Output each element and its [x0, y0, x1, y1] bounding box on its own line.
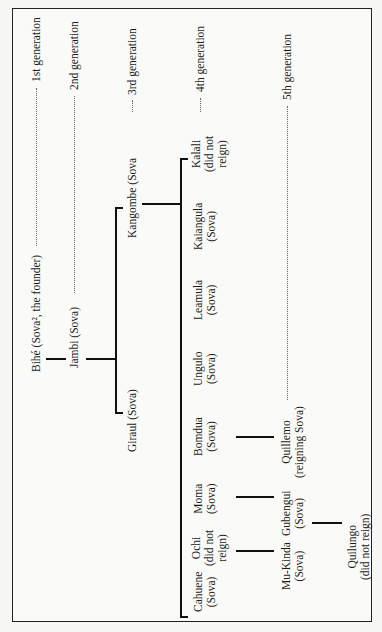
connector-jambi-sons [86, 358, 116, 360]
generation-label-2: 2nd generation [68, 21, 81, 90]
node-jambi: Jambi (Sova) [68, 307, 81, 368]
node-cahuene: Cahuene (Sova) [192, 572, 218, 612]
connector-kangombe-sons [142, 203, 182, 205]
node-mukinda: Mu-Kinda (Sova) [280, 542, 306, 590]
generation-label-4: 4th generation [194, 26, 207, 92]
node-bomdua: Bomdua (Sova) [192, 417, 218, 456]
kangombe-sons-trunk [180, 158, 182, 618]
node-quilungo: Quilungo (did not reign) [346, 514, 372, 580]
node-moma: Moma (Sova) [192, 483, 218, 514]
leader-2 [74, 96, 75, 293]
node-ochi: Ochi (did not reign) [190, 530, 229, 566]
leader-1 [36, 88, 37, 246]
generation-label-5: 5th generation [281, 34, 294, 100]
node-ungulo: Ungulo (Sova) [192, 352, 218, 387]
tick-giraul [115, 412, 123, 414]
generation-label-3: 3rd generation [126, 28, 139, 95]
node-leamula: Leamula (Sova) [192, 280, 218, 320]
node-gubengui: Gubengui (Sova) [280, 491, 306, 536]
tick-cahuene [180, 616, 188, 618]
connector-bihe-jambi [46, 358, 66, 360]
connector-ochi-mukinda [236, 550, 274, 552]
node-kaiangula: Kaiangula (Sova) [192, 203, 218, 250]
leader-3 [132, 100, 133, 112]
node-quillemo: Quillemo (reigning Sova) [280, 406, 306, 478]
connector-gubengui-quilungo [312, 522, 342, 524]
tick-kangombe [115, 207, 123, 209]
sons-trunk [115, 207, 117, 414]
node-giraul: Giraul (Sova) [126, 389, 139, 452]
leader-4 [200, 98, 201, 112]
node-bihe: Bihé (Sova², the founder) [30, 255, 43, 372]
connector-bomdua-quillemo [236, 436, 274, 438]
node-kalali: Kalali (did not reign) [190, 136, 229, 172]
generation-label-1: 1st generation [30, 17, 43, 82]
connector-moma-gubengui [236, 496, 274, 498]
leader-5 [287, 106, 288, 400]
node-kangombe: Kangombe (Sova [126, 158, 139, 238]
tick-kalali [180, 158, 188, 160]
